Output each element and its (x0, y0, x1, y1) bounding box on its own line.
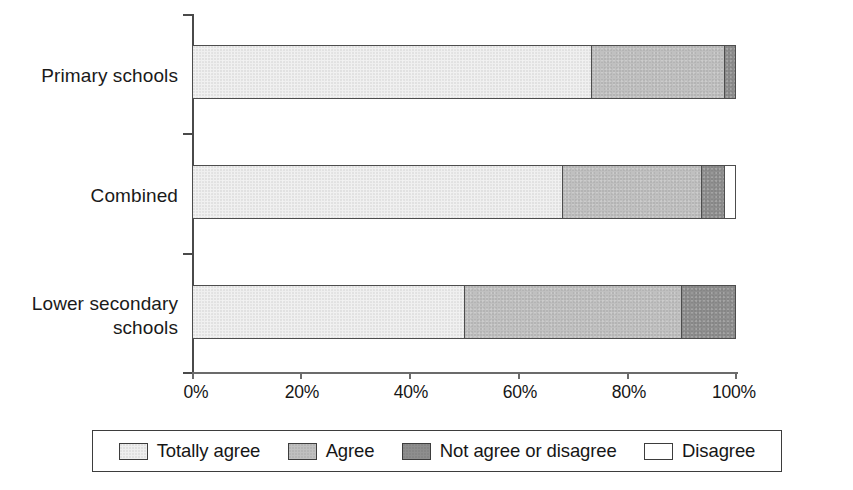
bar-segment-agree (562, 166, 702, 218)
legend-item-totally-agree: Totally agree (119, 440, 261, 462)
bar-segment-totally-agree (193, 166, 562, 218)
x-axis-tick-label-80: 80% (612, 382, 646, 403)
x-axis-tick-label-100: 100% (712, 382, 756, 403)
bar-segment-not-agree-or-disagree (681, 286, 735, 338)
bar-segment-agree (591, 46, 724, 98)
category-label-combined: Combined (91, 184, 178, 208)
legend-swatch-icon (644, 443, 673, 460)
chart-legend: Totally agree Agree Not agree or disagre… (92, 430, 782, 472)
stacked-bar-chart: Primary schools Combined Lower secondary… (0, 0, 853, 490)
legend-label: Totally agree (157, 440, 261, 462)
x-axis-tick-label-60: 60% (503, 382, 537, 403)
legend-item-agree: Agree (288, 440, 375, 462)
legend-swatch-icon (402, 443, 431, 460)
bar-segment-not-agree-or-disagree (724, 46, 735, 98)
legend-label: Agree (326, 440, 375, 462)
legend-label: Disagree (682, 440, 755, 462)
x-axis-line (186, 372, 738, 374)
bar-segment-totally-agree (193, 286, 464, 338)
bar-lower-secondary-schools (192, 285, 736, 339)
bar-segment-disagree (724, 166, 735, 218)
legend-swatch-icon (288, 443, 317, 460)
x-axis-tick-label-20: 20% (285, 382, 319, 403)
x-axis-tick (192, 372, 194, 379)
bar-segment-not-agree-or-disagree (701, 166, 724, 218)
legend-label: Not agree or disagree (440, 440, 617, 462)
x-axis-tick (518, 372, 520, 379)
legend-item-disagree: Disagree (644, 440, 755, 462)
plot-area (192, 14, 736, 369)
category-label-primary-schools: Primary schools (41, 64, 178, 88)
x-axis-tick-label-0: 0% (184, 382, 209, 403)
bar-combined (192, 165, 736, 219)
x-axis-tick-label-40: 40% (394, 382, 428, 403)
x-axis-tick (409, 372, 411, 379)
legend-swatch-icon (119, 443, 148, 460)
x-axis-tick (300, 372, 302, 379)
bar-segment-totally-agree (193, 46, 591, 98)
bar-primary-schools (192, 45, 736, 99)
x-axis-tick (627, 372, 629, 379)
legend-item-not-agree-or-disagree: Not agree or disagree (402, 440, 617, 462)
category-label-lower-secondary-schools: Lower secondary schools (32, 292, 178, 340)
bar-segment-agree (464, 286, 681, 338)
x-axis-tick (735, 372, 737, 379)
